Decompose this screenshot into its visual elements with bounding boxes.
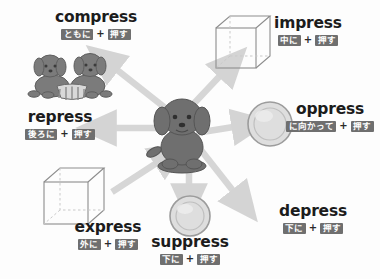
prefix-gloss-depress: 下に (283, 223, 306, 235)
prefix-gloss-compress: ともに (61, 29, 93, 41)
plus-sign-suppress: + (185, 254, 195, 264)
prefix-gloss-impress: 中に (278, 35, 301, 47)
root-gloss-depress: 押す (320, 223, 343, 235)
formula-oppress: に向かって + 押す (282, 121, 378, 133)
plus-sign-repress: + (59, 129, 69, 139)
word-depress: depress (268, 204, 358, 220)
root-gloss-express: 押す (115, 239, 138, 251)
root-gloss-repress: 押す (72, 129, 95, 141)
label-oppress: oppress に向かって + 押す (282, 102, 378, 132)
label-compress: compress ともに + 押す (44, 10, 148, 40)
illustration-compress-two-puppies (26, 48, 118, 100)
plus-sign-express: + (103, 239, 113, 249)
label-impress: impress 中に + 押す (262, 16, 354, 46)
prefix-gloss-repress: 後ろに (25, 129, 57, 141)
formula-compress: ともに + 押す (44, 29, 148, 41)
formula-express: 外に + 押す (63, 239, 153, 251)
label-express: express 外に + 押す (63, 220, 153, 250)
plus-sign-compress: + (95, 29, 105, 39)
formula-suppress: 下に + 押す (143, 254, 237, 266)
root-gloss-suppress: 押す (197, 254, 220, 266)
center-puppy-illustration (146, 94, 222, 174)
label-suppress: suppress 下に + 押す (143, 235, 237, 265)
root-gloss-compress: 押す (108, 29, 131, 41)
root-gloss-oppress: 押す (351, 121, 374, 133)
prefix-gloss-express: 外に (78, 239, 101, 251)
formula-depress: 下に + 押す (268, 223, 358, 235)
formula-impress: 中に + 押す (262, 35, 354, 47)
root-gloss-impress: 押す (315, 35, 338, 47)
word-oppress: oppress (282, 102, 378, 118)
word-suppress: suppress (143, 235, 237, 251)
prefix-gloss-oppress: に向かって (286, 121, 336, 133)
word-compress: compress (44, 10, 148, 26)
diagram-canvas: compress ともに + 押す impress 中に + 押す oppres… (0, 0, 380, 279)
plus-sign-impress: + (303, 35, 313, 45)
word-impress: impress (262, 16, 354, 32)
plus-sign-oppress: + (338, 121, 348, 131)
plus-sign-depress: + (308, 223, 318, 233)
label-depress: depress 下に + 押す (268, 204, 358, 234)
prefix-gloss-suppress: 下に (160, 254, 183, 266)
word-express: express (63, 220, 153, 236)
formula-repress: 後ろに + 押す (14, 129, 106, 141)
label-repress: repress 後ろに + 押す (14, 110, 106, 140)
word-repress: repress (14, 110, 106, 126)
